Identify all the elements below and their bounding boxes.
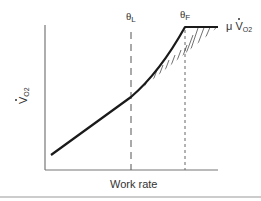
y-axis-label: VO2 bbox=[17, 87, 30, 104]
theta-f-label: θF bbox=[180, 8, 190, 22]
x-axis-label: Work rate bbox=[110, 178, 157, 190]
vo2-curve bbox=[51, 27, 218, 155]
hatched-region bbox=[130, 25, 223, 110]
theta-l-label: θL bbox=[126, 10, 136, 24]
plateau-label: μ VO2 bbox=[226, 20, 252, 33]
diagram-canvas bbox=[0, 0, 261, 201]
